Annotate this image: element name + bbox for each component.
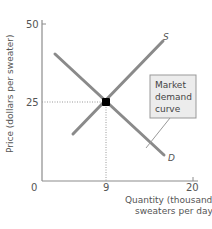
x-axis-title-line-1: Quantity (thousands of	[125, 195, 212, 205]
equilibrium-point	[102, 98, 110, 106]
annotation-leader-line	[146, 118, 170, 148]
supply-label: S	[163, 32, 169, 42]
annotation-line-1: Market	[155, 80, 186, 90]
demand-label: D	[168, 153, 175, 163]
x-tick-label-0: 0	[31, 182, 37, 193]
supply-demand-chart: Market demand curve S D 50 25 0 9 20 Qua…	[0, 0, 212, 229]
x-axis-title-line-2: sweaters per day)	[135, 206, 212, 216]
annotation-line-3: curve	[155, 104, 181, 114]
y-tick-label-50: 50	[26, 19, 39, 30]
x-tick-label-9: 9	[103, 182, 109, 193]
y-tick-label-25: 25	[26, 97, 39, 108]
x-tick-label-20: 20	[186, 182, 199, 193]
annotation-line-2: demand	[155, 92, 192, 102]
y-axis-title: Price (dollars per sweater)	[5, 34, 15, 153]
